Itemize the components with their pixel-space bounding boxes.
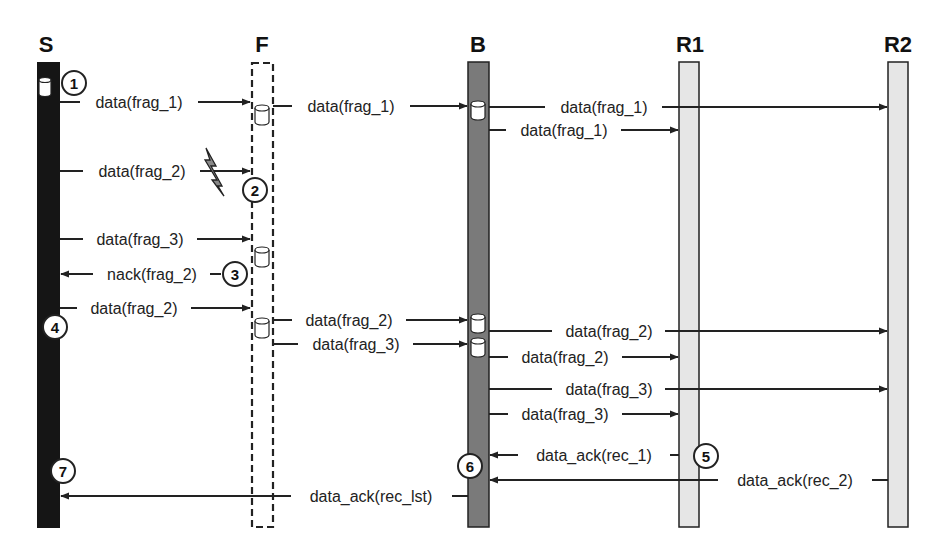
svg-text:6: 6 bbox=[466, 458, 474, 475]
svg-text:3: 3 bbox=[231, 266, 239, 283]
lifeline-label-f: F bbox=[255, 32, 268, 57]
step-circle-4: 4 bbox=[43, 315, 67, 339]
storage-cylinder-icon bbox=[255, 318, 269, 338]
storage-cylinder-icon bbox=[471, 101, 485, 120]
message-label: data(frag_3) bbox=[96, 231, 183, 249]
lifeline-label-s: S bbox=[39, 32, 54, 57]
message-label: data(frag_1) bbox=[560, 99, 647, 117]
svg-text:1: 1 bbox=[70, 75, 78, 92]
message-label: data(frag_1) bbox=[307, 98, 394, 116]
message-label: data(frag_3) bbox=[565, 381, 652, 399]
lifeline-bar-r2 bbox=[888, 62, 908, 527]
step-circle-6: 6 bbox=[458, 454, 482, 478]
svg-text:5: 5 bbox=[702, 448, 710, 465]
step-circle-7: 7 bbox=[51, 459, 75, 483]
storage-cylinder-icon bbox=[471, 314, 485, 333]
storage-cylinder-icon bbox=[255, 247, 269, 267]
lifeline-label-r1: R1 bbox=[676, 32, 704, 57]
message-label: data(frag_2) bbox=[305, 312, 392, 330]
svg-text:2: 2 bbox=[251, 182, 259, 199]
message-label: data(frag_3) bbox=[521, 406, 608, 424]
step-circle-3: 3 bbox=[223, 262, 247, 286]
message-label: data(frag_2) bbox=[521, 349, 608, 367]
message-label: data(frag_2) bbox=[90, 300, 177, 318]
storage-cylinder-icon bbox=[39, 78, 51, 97]
storage-cylinder-icon bbox=[471, 338, 485, 357]
storage-cylinder-icon bbox=[255, 105, 269, 125]
message-label: data_ack(rec_1) bbox=[536, 447, 652, 465]
lifeline-label-b: B bbox=[470, 32, 486, 57]
message-label: data_ack(rec_2) bbox=[737, 472, 853, 490]
message-label: data(frag_1) bbox=[520, 122, 607, 140]
lifeline-label-r2: R2 bbox=[884, 32, 912, 57]
message-label: nack(frag_2) bbox=[107, 266, 197, 284]
sequence-diagram: S F B R1 R2 bbox=[0, 0, 948, 556]
lifeline-bar-f bbox=[252, 63, 273, 527]
message-label: data(frag_2) bbox=[565, 323, 652, 341]
message-label: data(frag_3) bbox=[312, 336, 399, 354]
message-label: data_ack(rec_lst) bbox=[310, 488, 433, 506]
step-circle-2: 2 bbox=[243, 178, 267, 202]
step-circle-5: 5 bbox=[694, 444, 718, 468]
message-label: data(frag_2) bbox=[98, 163, 185, 181]
svg-text:4: 4 bbox=[51, 319, 60, 336]
message-label: data(frag_1) bbox=[95, 94, 182, 112]
lifeline-bar-s bbox=[37, 62, 60, 528]
svg-text:7: 7 bbox=[59, 463, 67, 480]
step-circle-1: 1 bbox=[62, 71, 86, 95]
